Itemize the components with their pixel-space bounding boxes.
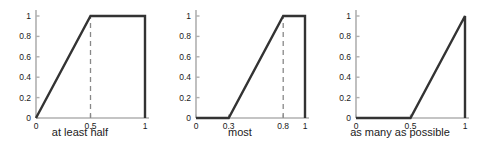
y-tick-label: 0 bbox=[26, 113, 31, 123]
y-tick-label: 1 bbox=[26, 11, 31, 21]
y-tick-label: 0.6 bbox=[179, 52, 191, 62]
y-tick-label: 0 bbox=[186, 113, 191, 123]
fuzzy-quantifier-figure: 00.20.40.60.8100.51 at least half 00.20.… bbox=[0, 0, 480, 150]
y-tick-label: 0.6 bbox=[19, 52, 31, 62]
y-tick-label: 0.6 bbox=[339, 52, 351, 62]
y-tick-label: 0.4 bbox=[19, 72, 31, 82]
y-tick-label: 0.2 bbox=[179, 93, 191, 103]
chart-caption-at-least-half: at least half bbox=[0, 126, 160, 138]
y-tick-label: 0.4 bbox=[339, 72, 351, 82]
y-tick-label: 0.2 bbox=[19, 93, 31, 103]
y-tick-label: 1 bbox=[346, 11, 351, 21]
chart-panel-at-least-half: 00.20.40.60.8100.51 at least half bbox=[0, 0, 160, 150]
chart-caption-most: most bbox=[160, 126, 320, 138]
chart-panel-most: 00.20.40.60.8100.30.81 most bbox=[160, 0, 320, 150]
y-tick-label: 0.8 bbox=[339, 31, 351, 41]
y-tick-label: 0.4 bbox=[179, 72, 191, 82]
membership-function-line bbox=[36, 16, 145, 118]
y-tick-label: 0 bbox=[346, 113, 351, 123]
membership-function-line bbox=[356, 16, 465, 118]
chart-caption-as-many-as-possible: as many as possible bbox=[320, 126, 480, 138]
y-tick-label: 0.8 bbox=[19, 31, 31, 41]
y-tick-label: 0.2 bbox=[339, 93, 351, 103]
membership-function-line bbox=[196, 16, 305, 118]
y-tick-label: 0.8 bbox=[179, 31, 191, 41]
chart-panel-as-many-as-possible: 00.20.40.60.8100.51 as many as possible bbox=[320, 0, 480, 150]
y-tick-label: 1 bbox=[186, 11, 191, 21]
